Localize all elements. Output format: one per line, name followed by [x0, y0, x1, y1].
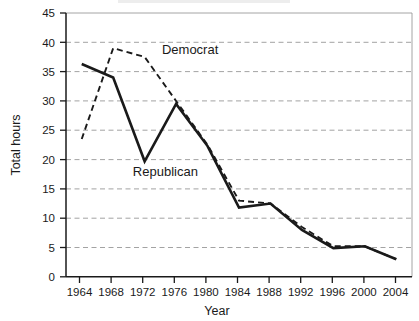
- x-axis-title: Year: [204, 304, 229, 318]
- series-line-democrat: [82, 48, 397, 259]
- y-axis-tick-labels: 45 40 35 30 25 20 15 10 5 0: [42, 7, 55, 283]
- cropped-title-artifact: [118, 0, 290, 3]
- y-tick-label-10: 10: [42, 212, 55, 224]
- line-chart: 45 40 35 30 25 20 15 10 5 0 196: [0, 0, 419, 321]
- x-tick-label-1964: 1964: [67, 286, 93, 298]
- y-tick-label-40: 40: [42, 37, 55, 49]
- y-axis-title: Total hours: [9, 114, 23, 175]
- chart-canvas: 45 40 35 30 25 20 15 10 5 0 196: [0, 0, 419, 321]
- x-tick-label-1988: 1988: [256, 286, 282, 298]
- y-tick-label-15: 15: [42, 183, 55, 195]
- x-tick-label-1996: 1996: [320, 286, 346, 298]
- y-tick-label-5: 5: [49, 242, 55, 254]
- gridlines: [66, 42, 412, 247]
- x-tick-label-1972: 1972: [130, 286, 156, 298]
- series-line-republican: [82, 64, 397, 259]
- x-axis-tick-labels: 1964 1968 1972 1976 1980 1984 1988 1992 …: [67, 286, 409, 298]
- y-tick-label-20: 20: [42, 154, 55, 166]
- y-axis-ticks: [60, 13, 66, 277]
- x-tick-label-2004: 2004: [383, 286, 409, 298]
- y-tick-label-0: 0: [49, 271, 55, 283]
- y-tick-label-35: 35: [42, 66, 55, 78]
- x-tick-label-1984: 1984: [225, 286, 251, 298]
- series-annotation-democrat: Democrat: [162, 42, 219, 57]
- x-tick-label-1992: 1992: [288, 286, 314, 298]
- y-tick-label-30: 30: [42, 95, 55, 107]
- y-tick-label-45: 45: [42, 7, 55, 19]
- y-tick-label-25: 25: [42, 124, 55, 136]
- x-tick-label-1968: 1968: [98, 286, 124, 298]
- x-tick-label-2000: 2000: [351, 286, 377, 298]
- series-annotation-republican: Republican: [133, 164, 198, 179]
- x-tick-label-1976: 1976: [162, 286, 188, 298]
- plot-frame: [66, 13, 412, 277]
- x-axis-ticks: [80, 277, 396, 283]
- x-tick-label-1980: 1980: [193, 286, 219, 298]
